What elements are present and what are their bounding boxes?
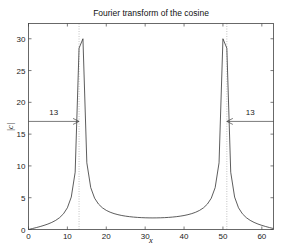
y-tick-label: 15 [17,130,26,139]
y-tick-label: 5 [21,194,26,203]
x-axis-label: x [148,235,153,245]
y-axis-label: |c| [5,123,15,131]
data-line [29,39,274,230]
x-tick-label: 50 [218,232,227,241]
y-tick-label: 10 [17,162,26,171]
chart-title: Fourier transform of the cosine [93,8,209,18]
fourier-chart: Fourier transform of the cosine 01020304… [0,0,282,246]
axes-box [29,24,274,230]
y-axis-ticks: 051015202530 [17,35,274,235]
plot-area [29,24,274,230]
annotation-label: 13 [49,108,58,117]
annotation-label: 13 [246,108,255,117]
x-tick-label: 20 [102,232,111,241]
x-tick-label: 10 [63,232,72,241]
y-tick-label: 20 [17,98,26,107]
y-tick-label: 30 [17,35,26,44]
x-tick-label: 40 [180,232,189,241]
x-tick-label: 0 [26,232,31,241]
x-tick-label: 60 [257,232,266,241]
annotations: 1313 [29,108,274,124]
y-tick-label: 25 [17,67,26,76]
y-tick-label: 0 [21,226,26,235]
x-axis-ticks: 0102030405060 [26,24,267,241]
